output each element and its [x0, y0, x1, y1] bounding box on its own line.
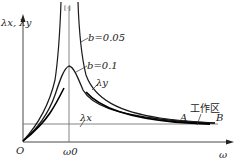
point-a-label: A [179, 112, 187, 123]
top-mark: [·] [64, 4, 71, 11]
label-b005: b=0.05 [88, 32, 125, 43]
x-axis-label: ω [219, 149, 227, 160]
label-b01: b=0.1 [87, 60, 118, 71]
point-b-label: B [215, 112, 223, 123]
leader-b005 [81, 38, 88, 42]
curve-b01 [23, 66, 215, 141]
diagram-canvas: [·] λx, λy O ω0 ω b=0.05 b=0.1 λy λx 工作区… [0, 0, 245, 164]
origin-label: O [16, 145, 24, 156]
y-axis-label: λx, λy [0, 17, 32, 28]
label-lambda-y: λy [95, 77, 108, 88]
omega0-label: ω0 [63, 146, 78, 157]
x-axis-arrow-icon [226, 140, 234, 145]
label-lambda-x: λx [79, 112, 92, 123]
